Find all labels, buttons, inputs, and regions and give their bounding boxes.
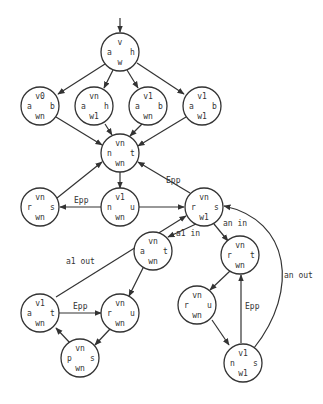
node-label-bottom: wn <box>192 311 202 320</box>
node-label-right: u <box>207 301 212 310</box>
node-label-top: vn <box>115 299 125 308</box>
state-node-n11: v1atwn <box>21 294 59 332</box>
node-label-left: r <box>184 301 189 310</box>
node-label-right: b <box>212 102 217 111</box>
state-node-n12: vnruwn <box>101 294 139 332</box>
state-node-n6: vnrswn <box>21 188 59 226</box>
node-label-bottom: wn <box>35 213 45 222</box>
edge-n0-n2 <box>104 70 113 88</box>
node-label-right: u <box>130 203 135 212</box>
edge-n9-n12 <box>129 268 143 296</box>
node-label-top: v1 <box>115 193 125 202</box>
state-node-n7: v1nuwn <box>101 188 139 226</box>
node-label-bottom: w <box>118 58 123 67</box>
state-node-n3: v1abwn <box>129 87 167 125</box>
node-label-right: u <box>130 309 135 318</box>
node-label-bottom: wn <box>115 159 125 168</box>
node-label-top: v1 <box>197 92 207 101</box>
edge-label: a1 in <box>176 229 200 238</box>
node-label-top: vn <box>75 344 85 353</box>
edge-label: Epp <box>74 196 89 205</box>
node-label-bottom: wn <box>35 112 45 121</box>
node-label-left: n <box>107 149 112 158</box>
node-label-right: t <box>250 251 255 260</box>
edge-n14-n15 <box>212 320 229 345</box>
node-label-right: b <box>50 102 55 111</box>
state-node-n5: vnntwn <box>101 134 139 172</box>
edge-n2-n5 <box>105 124 112 135</box>
node-label-left: r <box>27 203 32 212</box>
node-label-right: h <box>130 48 135 57</box>
node-label-left: r <box>227 251 232 260</box>
node-label-left: r <box>191 203 196 212</box>
node-label-bottom: wn <box>115 213 125 222</box>
edge-n13-n11 <box>56 328 70 343</box>
node-label-right: h <box>104 102 109 111</box>
node-label-top: v1 <box>35 299 45 308</box>
node-label-top: vn <box>199 193 209 202</box>
node-label-top: vn <box>35 193 45 202</box>
node-label-right: s <box>253 359 258 368</box>
node-label-right: b <box>158 102 163 111</box>
state-node-n10: vnrtwn <box>221 236 259 274</box>
edge-n0-n3 <box>127 70 138 88</box>
node-label-left: a <box>140 247 145 256</box>
node-label-bottom: w1 <box>238 369 248 378</box>
state-node-n4: v1abw1 <box>183 87 221 125</box>
node-label-left: p <box>67 354 72 363</box>
edge-label: Epp <box>73 302 88 311</box>
node-label-top: vn <box>115 139 125 148</box>
state-node-n14: vnruwn <box>178 286 216 324</box>
node-label-bottom: wn <box>75 364 85 373</box>
node-label-right: s <box>50 203 55 212</box>
node-label-left: n <box>230 359 235 368</box>
state-node-n1: v0abwn <box>21 87 59 125</box>
node-label-top: v1 <box>238 349 248 358</box>
node-label-top: vn <box>235 241 245 250</box>
node-label-bottom: wn <box>235 261 245 270</box>
edge-n3-n5 <box>130 124 142 136</box>
node-label-top: vn <box>192 291 202 300</box>
state-node-n15: v1nsw1 <box>224 344 262 382</box>
node-label-left: a <box>81 102 86 111</box>
node-label-bottom: w1 <box>197 112 207 121</box>
node-label-right: t <box>130 149 135 158</box>
edge-n8-n5 <box>138 162 190 193</box>
node-label-bottom: w1 <box>199 213 209 222</box>
node-label-left: a <box>189 102 194 111</box>
node-label-left: r <box>107 309 112 318</box>
state-node-n13: vnpswn <box>61 339 99 377</box>
edge-n6-n5 <box>57 162 102 198</box>
node-label-right: t <box>50 309 55 318</box>
node-label-bottom: w1 <box>89 112 99 121</box>
edge-label: Epp <box>245 302 260 311</box>
node-label-top: vn <box>89 92 99 101</box>
node-label-top: vn <box>148 237 158 246</box>
node-label-right: t <box>163 247 168 256</box>
state-node-n8: vnrsw1 <box>185 188 223 226</box>
node-label-top: v0 <box>35 92 45 101</box>
node-label-right: s <box>214 203 219 212</box>
node-label-bottom: wn <box>35 319 45 328</box>
node-label-bottom: wn <box>143 112 153 121</box>
node-label-left: a <box>27 102 32 111</box>
edge-n10-n14 <box>210 271 230 290</box>
node-label-left: a <box>107 48 112 57</box>
state-node-n0: vahw <box>101 33 139 71</box>
edge-n12-n13 <box>95 329 110 345</box>
node-label-bottom: wn <box>115 319 125 328</box>
node-label-bottom: wn <box>148 257 158 266</box>
node-label-left: a <box>27 309 32 318</box>
node-label-left: a <box>135 102 140 111</box>
edge-label: Epp <box>166 176 181 185</box>
node-label-left: n <box>107 203 112 212</box>
node-label-top: v1 <box>143 92 153 101</box>
node-label-right: s <box>90 354 95 363</box>
edge-label: an in <box>223 219 247 228</box>
edge-label: an out <box>284 271 313 280</box>
state-node-n9: vnatwn <box>134 232 172 270</box>
state-node-n2: vnahw1 <box>75 87 113 125</box>
edge-label: a1 out <box>66 257 95 266</box>
node-label-top: v <box>118 38 123 47</box>
state-diagram: Epp Epp a1 in an in a1 out an out Epp Ep… <box>0 0 323 404</box>
